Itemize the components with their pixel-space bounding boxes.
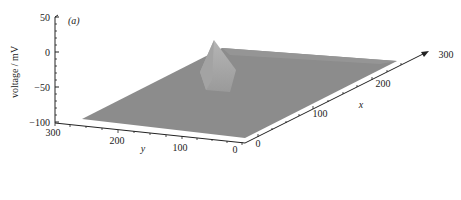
y-axis-title: y [140, 143, 146, 154]
z-tick-label: 0 [45, 47, 50, 58]
x-tick-label: 300 [439, 49, 454, 60]
y-tick-label: 300 [46, 127, 61, 138]
x-axis-title: x [358, 99, 364, 110]
z-axis: 50 0 −50 −100 voltage / mV [9, 12, 59, 128]
panel-label: (a) [68, 15, 80, 27]
z-axis-title: voltage / mV [9, 45, 20, 98]
x-tick-label: 100 [313, 108, 328, 119]
x-tick-label: 200 [376, 78, 391, 89]
y-tick-label: 0 [233, 144, 238, 155]
z-tick-label: −50 [34, 82, 50, 93]
surface-plot: 50 0 −50 −100 voltage / mV (a) 300 200 1… [0, 0, 461, 200]
y-tick-label: 200 [110, 135, 125, 146]
x-tick-label: 0 [256, 138, 261, 149]
y-tick-label: 100 [173, 142, 188, 153]
z-tick-label: 50 [40, 12, 50, 23]
